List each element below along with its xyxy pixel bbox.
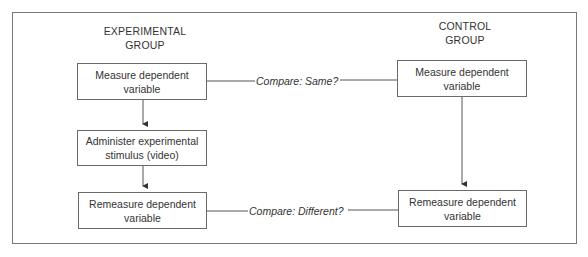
control-group-title: CONTROL GROUP: [400, 19, 530, 47]
ctrl-measure-box: Measure dependent variable: [397, 60, 527, 97]
title-line: CONTROL: [400, 19, 530, 33]
compare-same-label: Compare: Same?: [256, 75, 338, 87]
ctrl-remeasure-box: Remeasure dependent variable: [398, 190, 527, 227]
box-text: Administer experimental: [86, 134, 199, 148]
box-text: variable: [89, 211, 196, 225]
box-text: variable: [415, 79, 508, 93]
title-line: EXPERIMENTAL: [80, 24, 210, 38]
box-text: Remeasure dependent: [89, 197, 196, 211]
title-line: GROUP: [400, 33, 530, 47]
experimental-group-title: EXPERIMENTAL GROUP: [80, 24, 210, 52]
box-text: Measure dependent: [95, 68, 188, 82]
exp-stimulus-box: Administer experimental stimulus (video): [77, 130, 207, 166]
exp-remeasure-box: Remeasure dependent variable: [78, 192, 207, 229]
box-text: variable: [409, 209, 516, 223]
box-text: variable: [95, 82, 188, 96]
compare-different-label: Compare: Different?: [249, 205, 344, 217]
box-text: Remeasure dependent: [409, 195, 516, 209]
box-text: Measure dependent: [415, 65, 508, 79]
title-line: GROUP: [80, 38, 210, 52]
box-text: stimulus (video): [86, 148, 199, 162]
exp-measure-box: Measure dependent variable: [77, 63, 207, 100]
